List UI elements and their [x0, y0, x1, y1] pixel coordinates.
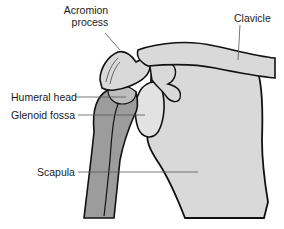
acromion-leader	[105, 33, 120, 50]
glenoid-fossa-label: Glenoid fossa	[11, 109, 75, 121]
acromion-process-label: Acromion process	[56, 4, 116, 28]
scapula-label: Scapula	[37, 166, 75, 178]
glenoid-fossa-shape	[135, 82, 164, 137]
humeral-head-label: Humeral head	[11, 91, 77, 103]
clavicle-label: Clavicle	[234, 12, 271, 24]
shoulder-diagram: Acromion process Clavicle Humeral head G…	[0, 0, 284, 229]
acromion-label-line1: Acromion	[56, 4, 116, 16]
acromion-label-line2: process	[56, 16, 116, 28]
